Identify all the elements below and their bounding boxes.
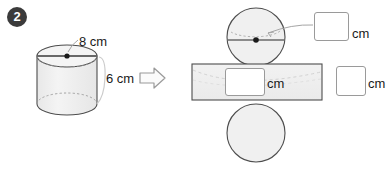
rectangle-right-answer-box[interactable]: [336, 66, 366, 96]
net-top-circle: [227, 8, 313, 66]
cylinder-center-dot: [64, 53, 69, 58]
rectangle-right-unit-label: cm: [368, 76, 385, 91]
cylinder-solid: [37, 40, 105, 115]
net-bottom-circle: [227, 104, 285, 162]
cylinder-diameter-label: 8 cm: [79, 34, 107, 49]
right-arrow-icon: [140, 68, 165, 88]
top-circle-unit-label: cm: [352, 26, 369, 41]
top-circle-center-dot: [253, 37, 259, 43]
worksheet-figure: 2: [0, 0, 391, 170]
top-circle-answer-box[interactable]: [314, 12, 349, 41]
height-brace: [97, 57, 105, 104]
cylinder-height-label: 6 cm: [106, 71, 134, 86]
rectangle-answer-box[interactable]: [225, 68, 265, 96]
rectangle-unit-label: cm: [267, 76, 284, 91]
